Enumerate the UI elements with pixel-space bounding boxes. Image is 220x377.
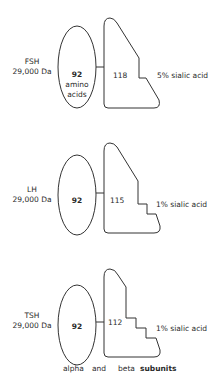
tsh-name: TSH <box>10 311 54 320</box>
lh-sialic: 1% sialic acid <box>156 200 207 209</box>
tsh-group <box>58 269 160 365</box>
caption-and: and <box>92 364 106 373</box>
tsh-sialic: 1% sialic acid <box>156 324 207 333</box>
lh-mass: 29,000 Da <box>6 195 58 204</box>
lh-alpha-count: 92 <box>62 196 92 205</box>
fsh-name: FSH <box>10 57 54 66</box>
caption-alpha: alpha <box>63 364 84 373</box>
fsh-sialic: 5% sialic acid <box>157 71 208 80</box>
fsh-alpha-count: 92 <box>62 70 92 79</box>
fsh-alpha-note-2: acids <box>62 90 92 99</box>
fsh-alpha-note-1: amino <box>62 80 92 89</box>
tsh-mass: 29,000 Da <box>6 321 58 330</box>
fsh-beta-subunit <box>104 18 159 108</box>
tsh-beta-count: 112 <box>108 318 122 327</box>
tsh-alpha-count: 92 <box>62 322 92 331</box>
lh-group <box>58 143 160 235</box>
lh-beta-subunit <box>104 143 160 233</box>
lh-alpha-subunit <box>58 155 96 235</box>
fsh-beta-count: 118 <box>113 71 127 80</box>
tsh-beta-subunit <box>104 269 160 357</box>
caption-subunits: subunits <box>140 364 176 373</box>
lh-name: LH <box>10 185 54 194</box>
lh-beta-count: 115 <box>110 196 124 205</box>
fsh-mass: 29,000 Da <box>6 67 58 76</box>
caption-beta: beta <box>118 364 135 373</box>
